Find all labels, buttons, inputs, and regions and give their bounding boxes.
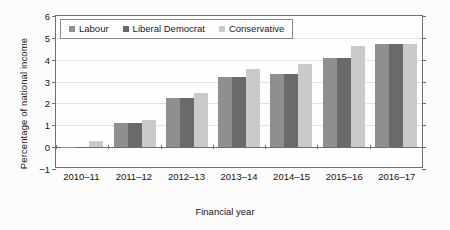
x-axis-tick-label: 2011–12 [108,171,161,182]
bar [389,44,403,148]
bar [75,147,89,148]
bar [166,98,180,147]
bar [351,46,365,147]
chart-figure: Percentage of national income 6543210−1 … [0,0,450,230]
legend-swatch-icon [123,26,129,32]
bar [142,120,156,147]
bar [218,77,232,147]
y-axis-tick-label: 5 [0,32,56,43]
x-axis-tick-label: 2014–15 [265,171,318,182]
x-axis-tick-label: 2012–13 [160,171,213,182]
bar [232,77,246,147]
bar [403,44,417,147]
x-axis-title: Financial year [0,206,450,217]
bar [114,123,128,147]
bar [194,93,208,147]
x-axis-tick-mark [56,145,57,149]
legend-swatch-icon [219,26,225,32]
y-axis-tick-label: 3 [0,76,56,87]
legend-item: Conservative [219,23,284,34]
bar [298,64,312,147]
bar [337,58,351,147]
legend-label: Conservative [229,23,284,34]
legend-swatch-icon [69,26,75,32]
bar-group [370,16,422,167]
legend-label: Labour [79,23,109,34]
bar [128,123,142,147]
y-axis-tick-label: −1 [0,164,56,175]
bar [89,141,103,147]
x-axis-tick-mark [108,145,109,149]
x-axis-tick-label: 2016–17 [370,171,423,182]
y-axis-tick-mark-right [422,103,426,104]
y-axis-tick-label: 2 [0,98,56,109]
y-axis-tick-mark-right [422,82,426,83]
y-axis-tick-label: 4 [0,54,56,65]
x-axis-tick-mark [161,145,162,149]
bar [323,58,337,147]
y-axis-tick-mark-right [422,169,426,170]
x-axis-tick-mark [213,145,214,149]
y-axis-tick-mark [52,169,56,170]
legend-item: Labour [69,23,109,34]
x-axis-tick-mark [265,145,266,149]
y-axis-tick-mark-right [422,38,426,39]
y-axis-tick-mark-right [422,125,426,126]
legend-item: Liberal Democrat [123,23,205,34]
bar [180,98,194,147]
x-axis-tick-label: 2010–11 [55,171,108,182]
x-axis-tick-mark [317,145,318,149]
chart-legend: LabourLiberal DemocratConservative [60,19,293,39]
x-axis-tick-mark [370,145,371,149]
bar [375,44,389,148]
y-axis-tick-mark-right [422,60,426,61]
y-axis-tick-mark-right [422,147,426,148]
y-axis-tick-label: 6 [0,11,56,22]
y-axis-tick-mark-right [422,16,426,17]
y-axis-tick-label: 1 [0,120,56,131]
legend-label: Liberal Democrat [133,23,205,34]
bar [284,74,298,147]
bar [61,147,75,148]
bar [270,74,284,147]
x-axis-tick-labels: 2010–112011–122012–132013–142014–152015–… [55,171,423,182]
y-axis-tick-label: 0 [0,142,56,153]
bar [246,69,260,147]
x-axis-tick-label: 2015–16 [318,171,371,182]
x-axis-tick-label: 2013–14 [213,171,266,182]
bar-group [317,16,369,167]
